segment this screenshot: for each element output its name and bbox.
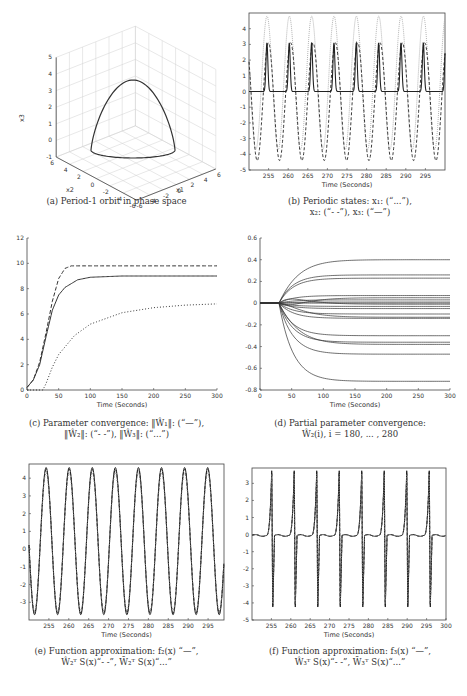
x-tick-label: 275	[343, 622, 355, 629]
panel-b: 255260265270275280285290295-5-4-3-2-1012…	[233, 0, 467, 220]
x2-tick-label: -2	[103, 188, 109, 195]
series-2	[252, 472, 446, 605]
x-tick-label: 150	[116, 392, 128, 399]
y-tick-label: 10	[16, 259, 24, 266]
y-tick-label: -2	[240, 119, 246, 126]
y-tick-label: -2	[243, 565, 249, 572]
parameter-trace	[260, 260, 450, 303]
y-tick-label: 2	[22, 510, 26, 517]
chart-3d-orbit: -1012345-6-4-202466420-2-4-6x3x2x1	[0, 0, 233, 200]
y-tick-label: 2	[245, 496, 249, 503]
x-tick-label: 295	[421, 622, 433, 629]
series-1	[252, 471, 446, 607]
y-tick-label: 0	[22, 545, 26, 552]
x-tick-label: 280	[361, 172, 373, 179]
x-tick-label: 280	[143, 622, 155, 629]
y-tick-label: -4	[243, 599, 249, 606]
x-tick-label: 285	[382, 622, 394, 629]
x1-axis-label: x1	[176, 186, 184, 194]
chart-function-approx-f2: 255260265270275280285290295-3-2-101234Ti…	[0, 450, 233, 650]
y-tick-label: 3	[242, 40, 246, 47]
x-tick-label: 265	[302, 172, 314, 179]
x-tick-label: 285	[163, 622, 175, 629]
series-x3	[249, 43, 445, 92]
caption-a: (a) Period-1 orbit in phase space	[0, 196, 233, 207]
x-tick-label: 270	[103, 622, 115, 629]
parameter-trace	[260, 303, 450, 342]
panel-a: -1012345-6-4-202466420-2-4-6x3x2x1 (a) P…	[0, 0, 233, 215]
y-tick-label: 0	[245, 531, 249, 538]
y-tick-label: 6	[20, 310, 24, 317]
y-tick-label: 4	[20, 335, 24, 342]
y-tick-label: -1	[243, 548, 249, 555]
y-tick-label: 0.2	[247, 277, 257, 284]
series-3	[29, 473, 224, 611]
y-tick-label: 0.4	[247, 256, 257, 263]
x-tick-label: 200	[148, 392, 160, 399]
x-tick-label: 250	[413, 392, 425, 399]
x-tick-label: 100	[85, 392, 97, 399]
x-tick-label: 300	[211, 392, 223, 399]
y-tick-label: 8	[20, 285, 24, 292]
y-tick-label: -0.6	[245, 364, 257, 371]
x2-tick-label: 2	[77, 173, 81, 180]
x-tick-label: 295	[420, 172, 432, 179]
x-tick-label: 260	[285, 622, 297, 629]
plot-frame	[29, 464, 224, 620]
caption-d: (d) Partial parameter convergence: Ŵ₂(i)…	[233, 418, 467, 440]
y-tick-label: -3	[243, 582, 249, 589]
x-tick-label: 285	[380, 172, 392, 179]
series-x1	[249, 16, 445, 149]
z-tick-label: 0	[48, 136, 52, 143]
x-tick-label: 200	[381, 392, 393, 399]
y-tick-label: 0	[253, 299, 257, 306]
chart-parameter-convergence: 050100150200250300024681012Time (Seconds…	[0, 220, 233, 420]
y-tick-label: 1	[22, 527, 26, 534]
x-axis-label: Time (Seconds)	[100, 631, 151, 639]
y-tick-label: -0.8	[245, 386, 257, 393]
y-tick-label: -5	[240, 166, 246, 173]
series-W2	[27, 266, 217, 388]
y-tick-label: -0.2	[245, 321, 257, 328]
x2-axis-label: x2	[66, 186, 74, 194]
x-tick-label: 290	[401, 622, 413, 629]
x-tick-label: 255	[43, 622, 55, 629]
y-tick-label: -3	[20, 598, 26, 605]
x-tick-label: 0	[25, 392, 29, 399]
y-tick-label: 4	[242, 25, 246, 32]
z-tick-label: 1	[48, 120, 52, 127]
x-tick-label: 250	[180, 392, 192, 399]
z-tick-label: 2	[48, 103, 52, 110]
x-tick-label: 260	[282, 172, 294, 179]
x2-tick-label: 6	[50, 159, 54, 166]
y-tick-label: 0	[20, 386, 24, 393]
series-W3	[27, 304, 217, 390]
x-tick-label: 275	[341, 172, 353, 179]
y-tick-label: 1	[242, 72, 246, 79]
x-tick-label: 255	[263, 172, 275, 179]
x-tick-label: 265	[304, 622, 316, 629]
x-tick-label: 50	[55, 392, 63, 399]
x-tick-label: 270	[322, 172, 334, 179]
x-tick-label: 100	[318, 392, 330, 399]
x-tick-label: 295	[202, 622, 214, 629]
caption-f: (f) Function approximation: f₃(x) “—”, Ŵ…	[233, 646, 467, 668]
x2-tick-label: 4	[64, 166, 68, 173]
x1-tick-label: 4	[204, 176, 208, 183]
x-tick-label: 280	[363, 622, 375, 629]
chart-function-approx-f3: 255260265270275280285290295300-5-4-3-2-1…	[233, 450, 467, 650]
x-tick-label: 275	[123, 622, 135, 629]
z-tick-label: 3	[48, 87, 52, 94]
y-tick-label: 12	[16, 234, 24, 241]
x-tick-label: 270	[324, 622, 336, 629]
x-axis-label: Time (Seconds)	[96, 401, 147, 409]
x-tick-label: 260	[63, 622, 75, 629]
plot-frame	[252, 468, 446, 620]
caption-c: (c) Parameter convergence: ‖Ŵ₁‖: (“—”), …	[0, 418, 233, 440]
x-tick-label: 150	[349, 392, 361, 399]
panel-e: 255260265270275280285290295-3-2-101234Ti…	[0, 450, 233, 696]
x-tick-label: 0	[258, 392, 262, 399]
x-axis-label: Time (Seconds)	[329, 401, 380, 409]
x-tick-label: 255	[266, 622, 278, 629]
x-tick-label: 290	[400, 172, 412, 179]
